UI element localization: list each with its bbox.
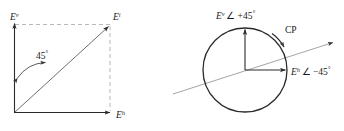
label-horizontal-component: Eh∠ −45° (290, 65, 331, 77)
label-angle-45: 45° (36, 49, 49, 61)
panel-linear-polarization: Ev Ei Eh 45° (9, 11, 125, 120)
label-vertical-component: Ev∠ +45° (215, 9, 255, 21)
label-horizontal-axis: Eh (115, 109, 125, 120)
resultant-vector (15, 27, 109, 113)
label-vertical-axis: Ev (9, 11, 19, 22)
panel-circular-polarization: Ev∠ +45° Eh∠ −45° CP (173, 9, 333, 112)
label-rotation-sense: CP (285, 25, 297, 35)
figure-root: Ev Ei Eh 45° (0, 0, 344, 131)
label-resultant-vector: Ei (112, 11, 121, 22)
angle-arc (18, 63, 46, 79)
polarization-diagram: Ev Ei Eh 45° (0, 0, 344, 131)
